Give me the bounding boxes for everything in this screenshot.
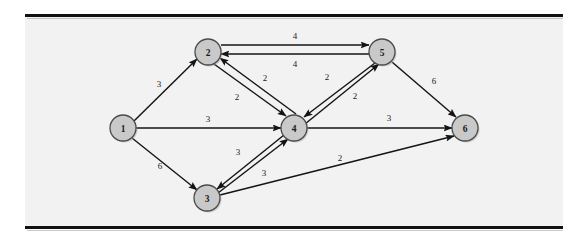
node-5[interactable]: 5 [369, 39, 397, 67]
edge-weight-2-4: 2 [235, 92, 240, 102]
figure-page: 33644222233362 123456 [0, 0, 587, 239]
edge-weight-3-4: 3 [262, 168, 267, 178]
edge-weight-5-6: 6 [432, 76, 437, 86]
node-label-3: 3 [205, 194, 210, 204]
graph-svg: 33644222233362 123456 [0, 0, 587, 239]
edge-5-to-4 [304, 63, 375, 117]
edge-weight-2-5: 4 [293, 31, 298, 41]
node-4[interactable]: 4 [281, 115, 309, 143]
node-label-5: 5 [380, 48, 385, 58]
node-label-4: 4 [292, 124, 297, 134]
edge-weight-4-6: 3 [387, 113, 392, 123]
edge-5-to-6 [392, 62, 456, 117]
edge-1-to-2 [134, 59, 197, 121]
edge-weight-4-3: 3 [236, 147, 241, 157]
edge-weight-5-4: 2 [325, 72, 330, 82]
node-2[interactable]: 2 [195, 39, 223, 67]
node-label-6: 6 [463, 124, 468, 134]
node-6[interactable]: 6 [452, 115, 480, 143]
edge-4-to-2 [220, 58, 296, 114]
edge-weight-5-2: 4 [293, 59, 298, 69]
node-label-1: 1 [121, 124, 126, 134]
edge-weight-1-4: 3 [206, 114, 211, 124]
edge-weight-4-5: 2 [353, 91, 358, 101]
edge-weight-4-2: 2 [263, 73, 268, 83]
edge-weight-3-6: 2 [338, 153, 343, 163]
edge-1-to-3 [132, 138, 197, 190]
edge-3-to-4 [218, 139, 288, 193]
edge-2-to-4 [214, 64, 286, 116]
edge-3-to-6 [220, 136, 454, 195]
edge-weight-1-3: 6 [158, 161, 163, 171]
node-label-2: 2 [206, 48, 211, 58]
node-1[interactable]: 1 [110, 115, 138, 143]
edge-weight-1-2: 3 [157, 79, 162, 89]
edge-4-to-5 [305, 64, 379, 124]
